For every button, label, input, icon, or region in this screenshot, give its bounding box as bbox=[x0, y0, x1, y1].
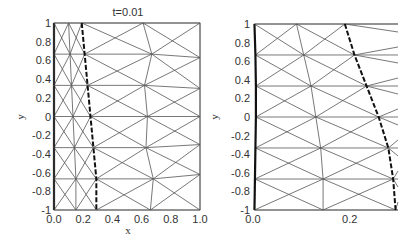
y-tick-label: -0.6 bbox=[32, 167, 51, 179]
y-tick-label: -0.2 bbox=[231, 130, 250, 142]
plot-title: t=0.01 bbox=[113, 6, 144, 18]
mesh-lines bbox=[254, 24, 398, 210]
figure: 10.80.60.40.20-0.2-0.4-0.6-0.8-10.00.20.… bbox=[0, 0, 418, 242]
y-tick-label: -0.4 bbox=[32, 148, 51, 160]
y-tick-label: 0 bbox=[45, 111, 51, 123]
x-tick-label: 0.0 bbox=[245, 213, 260, 225]
mesh-plot-right: 10.80.60.40.20-0.2-0.4-0.6-0.8-10.00.2 y bbox=[208, 18, 398, 225]
x-tick-label: 0.6 bbox=[134, 213, 149, 225]
x-tick-label: 0.2 bbox=[342, 213, 357, 225]
y-tick-label: 0.4 bbox=[36, 73, 51, 85]
x-tick-label: 0.8 bbox=[163, 213, 178, 225]
y-tick-label: -0.8 bbox=[231, 185, 250, 197]
y-tick-label: -0.6 bbox=[231, 167, 250, 179]
y-tick-label: 0.2 bbox=[36, 92, 51, 104]
y-tick-label: 0.8 bbox=[235, 37, 250, 49]
y-tick-label: -0.2 bbox=[32, 129, 51, 141]
y-tick-label: -0.4 bbox=[231, 148, 250, 160]
x-axis-label: x bbox=[125, 224, 131, 236]
y-tick-label: 0.6 bbox=[235, 55, 250, 67]
y-tick-label: 0.6 bbox=[36, 54, 51, 66]
x-tick-label: 0.4 bbox=[105, 213, 120, 225]
y-axis-label: y bbox=[208, 114, 220, 120]
y-tick-label: -0.8 bbox=[32, 185, 51, 197]
x-tick-label: 1.0 bbox=[192, 213, 207, 225]
y-tick-label: 0.2 bbox=[235, 92, 250, 104]
mesh-plot-left: 10.80.60.40.20-0.2-0.4-0.6-0.8-10.00.20.… bbox=[14, 6, 208, 236]
x-tick-label: 0.2 bbox=[76, 213, 91, 225]
y-tick-label: 0.4 bbox=[235, 74, 250, 86]
y-tick-label: 0 bbox=[244, 111, 250, 123]
y-tick-label: 1 bbox=[244, 18, 250, 30]
y-tick-label: 1 bbox=[45, 17, 51, 29]
x-tick-label: 0.0 bbox=[46, 213, 61, 225]
axis-ticks: 10.80.60.40.20-0.2-0.4-0.6-0.8-10.00.20.… bbox=[32, 17, 208, 225]
mesh-lines bbox=[54, 23, 200, 210]
y-axis-label: y bbox=[14, 114, 26, 120]
y-tick-label: 0.8 bbox=[36, 36, 51, 48]
